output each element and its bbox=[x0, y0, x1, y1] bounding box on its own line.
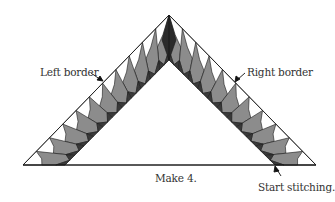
left-border-label: Left border bbox=[40, 66, 98, 78]
right-arrowhead-icon bbox=[235, 76, 240, 82]
border-units bbox=[23, 15, 316, 165]
make-count-label: Make 4. bbox=[155, 172, 197, 184]
start-stitching-label: Start stitching. bbox=[258, 181, 335, 193]
right-border-label: Right border bbox=[247, 66, 313, 78]
start-arrowhead-icon bbox=[274, 166, 279, 172]
